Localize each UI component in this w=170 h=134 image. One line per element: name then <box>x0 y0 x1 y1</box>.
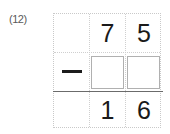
minus-operator-icon <box>62 70 82 73</box>
minuend-leading-blank-cell <box>54 14 89 52</box>
subtrahend-ones-input[interactable] <box>127 56 160 89</box>
difference-leading-blank-cell <box>54 92 89 129</box>
minuend-ones-digit: 5 <box>126 14 162 52</box>
worksheet-problem-canvas: (12) 7 5 1 6 <box>0 0 170 134</box>
subtrahend-tens-input[interactable] <box>91 56 124 89</box>
difference-ones-digit: 6 <box>126 92 162 131</box>
problem-number-label: (12) <box>9 13 27 25</box>
difference-tens-digit: 1 <box>90 92 125 131</box>
vertical-subtraction-grid: 7 5 1 6 <box>53 13 161 128</box>
grid-horizontal-divider-1 <box>54 52 160 53</box>
minuend-tens-digit: 7 <box>90 14 125 52</box>
